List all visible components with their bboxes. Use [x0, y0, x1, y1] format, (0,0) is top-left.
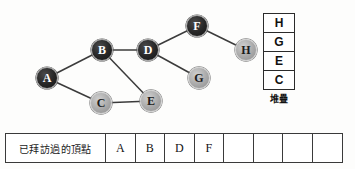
visited-cell: [254, 134, 284, 162]
graph-node-label: B: [98, 44, 106, 56]
graph-node-label: D: [144, 44, 153, 56]
stack-cell: C: [264, 71, 294, 89]
stack-panel: HGEC 堆疊: [263, 13, 295, 105]
visited-cell-label: B: [146, 141, 154, 156]
visited-cell-label: D: [175, 141, 184, 156]
visited-cell: [313, 134, 343, 162]
graph-node-g[interactable]: G: [188, 67, 210, 89]
stack-cell: E: [264, 52, 294, 71]
graph-node-f[interactable]: F: [186, 15, 208, 37]
visited-cell-label: F: [205, 141, 212, 156]
stack-caption: 堆疊: [263, 92, 295, 105]
graph-edges: [0, 0, 260, 125]
visited-cell-label: A: [116, 141, 125, 156]
visited-vertices-label: 已拜訪過的頂點: [6, 134, 106, 162]
graph-node-c[interactable]: C: [90, 92, 112, 114]
graph-node-a[interactable]: A: [36, 67, 58, 89]
visited-cell: F: [195, 134, 225, 162]
graph-node-label: F: [193, 20, 200, 32]
stack-cell-label: G: [274, 35, 283, 49]
visited-cell: [224, 134, 254, 162]
graph-node-b[interactable]: B: [91, 39, 113, 61]
stack-cell: H: [264, 14, 294, 33]
graph-node-h[interactable]: H: [235, 39, 257, 61]
graph-node-d[interactable]: D: [137, 39, 159, 61]
dfs-traversal-figure: ABCDEFGH HGEC 堆疊 已拜訪過的頂點 ABDF: [0, 0, 355, 169]
visited-vertices-table: 已拜訪過的頂點 ABDF: [5, 133, 343, 163]
graph-node-label: H: [241, 44, 250, 56]
stack-box: HGEC: [263, 13, 295, 90]
graph-diagram: ABCDEFGH: [0, 0, 260, 125]
graph-node-label: C: [97, 97, 106, 109]
stack-cell-label: H: [275, 16, 284, 30]
visited-cell: [283, 134, 313, 162]
graph-node-label: A: [43, 72, 52, 84]
stack-cell-label: E: [275, 54, 283, 68]
graph-node-label: E: [147, 95, 155, 107]
visited-cell: B: [136, 134, 166, 162]
graph-node-label: G: [194, 72, 203, 84]
stack-cell-label: C: [275, 73, 284, 87]
visited-cell: D: [165, 134, 195, 162]
graph-node-e[interactable]: E: [140, 90, 162, 112]
stack-cell: G: [264, 33, 294, 52]
visited-cell: A: [106, 134, 136, 162]
